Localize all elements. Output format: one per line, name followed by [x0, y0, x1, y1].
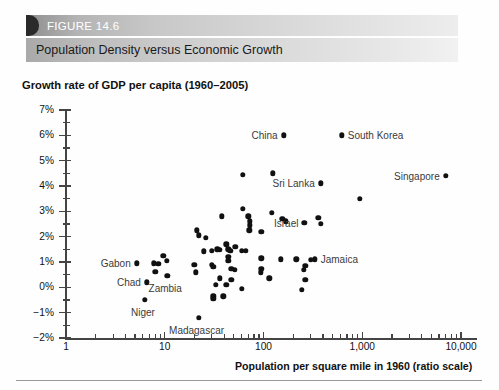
y-tick-label: 1% [16, 256, 54, 267]
data-point [294, 257, 299, 262]
data-point [156, 261, 161, 266]
point-label-chad: Chad [117, 277, 141, 288]
x-tick-minor [322, 334, 323, 339]
x-tick-minor [233, 334, 234, 339]
data-point [213, 282, 218, 287]
data-point [239, 286, 244, 291]
x-tick-minor [95, 334, 96, 339]
x-tick-minor [409, 334, 410, 339]
y-tick-minor [63, 325, 70, 326]
data-point [258, 269, 263, 274]
data-point [301, 267, 306, 272]
data-point [201, 249, 206, 254]
y-tick-major [59, 160, 71, 161]
x-tick-minor [445, 334, 446, 339]
x-tick-minor [332, 334, 333, 339]
data-point [196, 233, 201, 238]
data-point [217, 276, 222, 281]
x-tick-label: 100 [255, 341, 272, 352]
data-point [243, 248, 248, 253]
x-tick-minor [248, 334, 249, 339]
data-point [270, 171, 275, 176]
y-tick-minor [63, 299, 70, 300]
point-label-madagascar: Madagascar [169, 324, 224, 335]
y-axis-title: Growth rate of GDP per capita (1960–2005… [22, 79, 248, 91]
data-point [240, 206, 245, 211]
data-point [228, 277, 233, 282]
y-tick-major [59, 236, 71, 237]
data-point [247, 228, 252, 233]
data-point-zambia [165, 273, 170, 278]
x-tick-minor [456, 334, 457, 339]
y-tick-minor [63, 249, 70, 250]
x-tick-major [263, 332, 264, 340]
point-label-china: China [252, 130, 278, 141]
y-tick-minor [63, 198, 70, 199]
data-point [303, 277, 308, 282]
data-point [203, 235, 208, 240]
x-tick-major [65, 332, 66, 340]
y-tick-major [59, 287, 71, 288]
data-point [316, 215, 321, 220]
data-point [269, 210, 274, 215]
x-tick-minor [134, 334, 135, 339]
x-tick-label: 10 [159, 341, 170, 352]
point-label-singapore: Singapore [394, 170, 440, 181]
x-tick-minor [113, 334, 114, 339]
point-label-gabon: Gabon [101, 258, 131, 269]
x-tick-minor [357, 334, 358, 339]
x-axis-title: Population per square mile in 1960 (rati… [235, 360, 472, 372]
data-point [211, 296, 216, 301]
data-point-south-korea [339, 133, 344, 138]
bottom-divider [16, 380, 482, 381]
data-point-niger [142, 297, 147, 302]
y-tick-label: 4% [16, 180, 54, 191]
data-point [211, 264, 216, 269]
y-tick-label: 7% [16, 104, 54, 115]
x-tick-minor [155, 334, 156, 339]
y-tick-major [59, 109, 71, 110]
x-tick-minor [431, 334, 432, 339]
data-point [232, 267, 237, 272]
data-point [224, 282, 229, 287]
data-point [193, 269, 198, 274]
y-tick-minor [63, 274, 70, 275]
y-tick-label: 2% [16, 231, 54, 242]
y-tick-major [59, 185, 71, 186]
y-tick-label: 3% [16, 205, 54, 216]
data-point-madagascar [196, 315, 201, 320]
y-tick-minor [63, 122, 70, 123]
y-tick-label: −2% [16, 332, 54, 343]
data-point [227, 248, 232, 253]
data-point-china [281, 133, 286, 138]
data-point [233, 244, 238, 249]
point-label-sri-lanka: Sri Lanka [273, 178, 315, 189]
x-tick-minor [391, 334, 392, 339]
y-tick-minor [63, 173, 70, 174]
x-tick-minor [253, 334, 254, 339]
data-point [267, 276, 272, 281]
x-tick-minor [340, 334, 341, 339]
data-point [152, 269, 157, 274]
x-tick-minor [293, 334, 294, 339]
x-tick-minor [160, 334, 161, 339]
x-axis-line [65, 338, 477, 340]
data-point-singapore [443, 173, 448, 178]
y-tick-major [59, 261, 71, 262]
x-tick-minor [451, 334, 452, 339]
x-tick-major [362, 332, 363, 340]
data-point [318, 221, 323, 226]
x-tick-minor [149, 334, 150, 339]
x-tick-minor [125, 334, 126, 339]
data-point-israel [302, 220, 307, 225]
y-tick-label: 6% [16, 129, 54, 140]
x-tick-major [460, 332, 461, 340]
y-tick-minor [63, 223, 70, 224]
y-tick-major [59, 211, 71, 212]
scatter-plot: Growth rate of GDP per capita (1960–2005… [0, 0, 499, 390]
data-point [219, 214, 224, 219]
x-tick-minor [438, 334, 439, 339]
x-tick-major [164, 332, 165, 340]
data-point [299, 287, 304, 292]
y-tick-label: 0% [16, 281, 54, 292]
